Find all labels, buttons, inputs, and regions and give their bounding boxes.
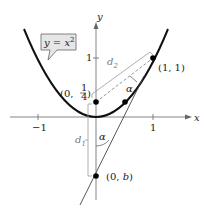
intercept-point	[93, 173, 99, 179]
focus-point	[93, 99, 99, 105]
d1-label: d1	[75, 134, 86, 148]
tangent-point-label: (1, 1)	[158, 62, 185, 73]
svg-text:y = x2: y = x2	[43, 36, 75, 48]
tick-x-1: 1	[150, 122, 156, 133]
parabola-diagram: y = x2 y x −1 1 1 (0, 1 4 ) (1, 1) (0, b…	[0, 0, 204, 208]
tick-x-neg1: −1	[32, 122, 47, 133]
y-axis-label: y	[96, 11, 103, 22]
curve-point	[122, 99, 128, 105]
d2-label: d2	[107, 56, 118, 70]
alpha-upper-label: α	[126, 83, 133, 94]
equation-callout: y = x2	[41, 34, 76, 60]
dashed-segment	[96, 58, 153, 102]
angle-arc-upper	[130, 76, 137, 82]
d2-bracket	[92, 52, 153, 98]
tick-y-1: 1	[86, 52, 92, 63]
tangent-point	[150, 55, 156, 61]
svg-text:): )	[87, 88, 91, 99]
svg-text:(0,: (0,	[60, 88, 73, 99]
alpha-lower-label: α	[99, 131, 106, 142]
x-axis-label: x	[194, 112, 200, 123]
intercept-label: (0, b)	[106, 171, 133, 182]
